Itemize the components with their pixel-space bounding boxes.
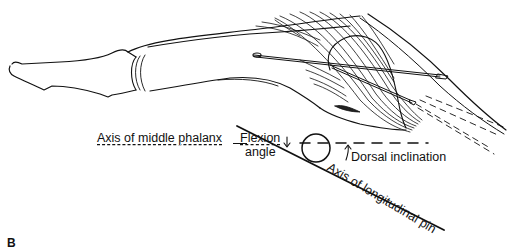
- flexion-angle-label-line1: Flexion: [240, 131, 280, 145]
- joint-shadow: [335, 105, 360, 112]
- intersection-circle: [302, 134, 330, 162]
- panel-letter: B: [7, 236, 16, 250]
- dorsal-inclination-label: Dorsal inclination: [351, 150, 446, 164]
- middle-phalanx-volar: [150, 77, 320, 108]
- flexion-angle-label-line2: angle: [245, 145, 276, 159]
- k-wires: [254, 55, 448, 105]
- pin-dashed-extension: [416, 96, 506, 154]
- fingertip-outline: [12, 50, 136, 64]
- proximal-phalanx-dorsal: [368, 14, 506, 130]
- axis-middle-phalanx-label: Axis of middle phalanx: [97, 131, 222, 145]
